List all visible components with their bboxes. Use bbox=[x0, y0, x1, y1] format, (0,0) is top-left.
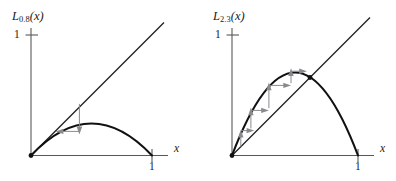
panel-left-plot bbox=[0, 0, 198, 181]
panel-title-arg-left: (x) bbox=[30, 9, 44, 23]
origin-point-left bbox=[29, 153, 34, 158]
panel-title-arg-right: (x) bbox=[231, 9, 245, 23]
cobweb-vertical-arrowhead-left bbox=[77, 127, 83, 135]
panel-title-sub-left: 0.8 bbox=[19, 15, 30, 24]
panel-title-fn-right: L bbox=[213, 9, 220, 23]
panel-title-left: L0.8(x) bbox=[12, 10, 44, 25]
cobweb-arrowhead-h1-right bbox=[247, 128, 255, 133]
fixed-point-dot-right bbox=[308, 75, 313, 80]
x-axis-name-right: x bbox=[380, 143, 385, 155]
panel-right: L2.3(x) 1 1 x bbox=[198, 0, 396, 181]
y-tick-label-right: 1 bbox=[215, 29, 221, 41]
x-tick-label-left: 1 bbox=[149, 161, 155, 173]
panel-title-fn-left: L bbox=[12, 9, 19, 23]
logistic-curve-left bbox=[31, 124, 152, 156]
x-tick-label-right: 1 bbox=[355, 161, 361, 173]
cobweb-arrowhead-h2-right bbox=[261, 108, 269, 113]
panel-title-sub-right: 2.3 bbox=[220, 15, 231, 24]
cobweb-arrowhead-h3-right bbox=[283, 83, 291, 88]
diagonal-line-left bbox=[31, 23, 164, 156]
x-axis-name-left: x bbox=[174, 143, 179, 155]
cobweb-figure: L0.8(x) 1 1 x bbox=[0, 0, 396, 181]
y-tick-label-left: 1 bbox=[14, 29, 20, 41]
origin-point-right bbox=[230, 153, 235, 158]
panel-title-right: L2.3(x) bbox=[213, 10, 245, 25]
panel-left: L0.8(x) 1 1 x bbox=[0, 0, 198, 181]
panel-right-plot bbox=[198, 0, 396, 181]
